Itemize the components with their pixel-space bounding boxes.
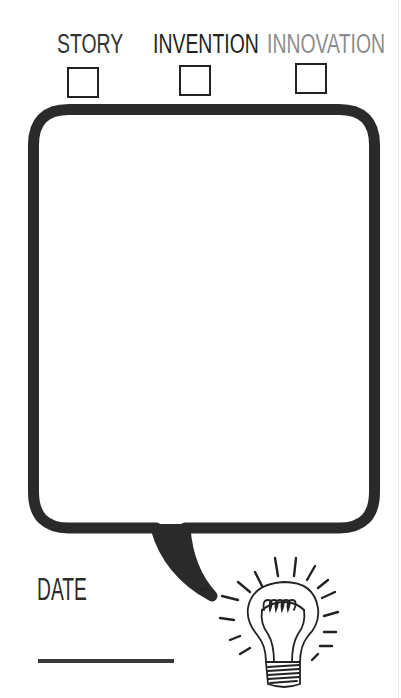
speech-bubble-outline	[34, 110, 375, 597]
light-bulb-icon	[200, 550, 350, 698]
date-label: DATE	[37, 574, 87, 605]
date-input-line[interactable]	[38, 659, 174, 663]
